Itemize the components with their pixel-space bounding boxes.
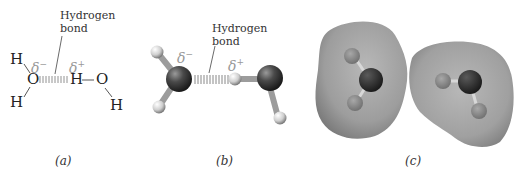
caption-c: (c) (405, 154, 421, 168)
panel-c-surface-model (0, 0, 526, 178)
